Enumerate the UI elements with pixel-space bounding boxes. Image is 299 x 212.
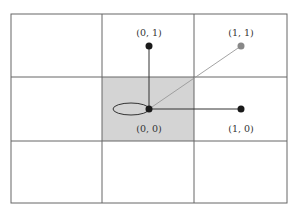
node-n10 — [238, 106, 245, 113]
node-n00 — [146, 106, 153, 113]
node-n01 — [146, 43, 153, 50]
grid-diagram: (0, 0) (0, 1) (1, 1) (1, 0) — [0, 0, 299, 212]
label-n01: (0, 1) — [136, 27, 162, 38]
label-n11: (1, 1) — [228, 27, 254, 38]
node-n11 — [238, 43, 245, 50]
label-n10: (1, 0) — [228, 123, 254, 134]
label-n00: (0, 0) — [136, 123, 162, 134]
